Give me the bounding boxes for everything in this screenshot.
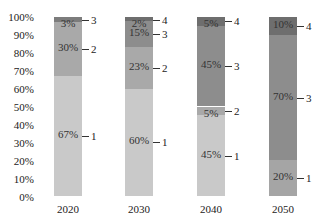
- x-tick-2050: 2050: [263, 203, 303, 215]
- segment-value-label: 20%: [269, 170, 297, 182]
- leader-line: [153, 34, 160, 35]
- series-number-label: 1: [234, 150, 240, 162]
- y-tick-20: 20%: [0, 155, 34, 167]
- bar-2040: 45%5%45%5%: [197, 17, 225, 196]
- segment-value-label: 30%: [54, 41, 82, 53]
- bar-segment-4: 10%: [269, 17, 297, 35]
- series-number-label: 1: [91, 130, 97, 142]
- series-number-label: 3: [162, 28, 168, 40]
- leader-line: [153, 68, 160, 69]
- leader-line: [225, 66, 232, 67]
- leader-line: [82, 20, 89, 21]
- y-tick-70: 70%: [0, 65, 34, 77]
- series-number-label: 3: [306, 92, 312, 104]
- series-number-label: 1: [162, 136, 168, 148]
- bar-2030: 60%23%15%2%: [125, 17, 153, 196]
- series-number-label: 2: [91, 43, 97, 55]
- bar-2050: 20%70%10%: [269, 17, 297, 196]
- bar-segment-3: 3%: [54, 17, 82, 22]
- y-tick-10: 10%: [0, 173, 34, 185]
- bar-segment-3: 45%: [197, 26, 225, 107]
- leader-line: [153, 142, 160, 143]
- x-tick-2030: 2030: [119, 203, 159, 215]
- series-number-label: 4: [234, 15, 240, 27]
- segment-value-label: 70%: [269, 90, 297, 102]
- leader-line: [225, 21, 232, 22]
- segment-value-label: 23%: [125, 60, 153, 72]
- bar-segment-2: 5%: [197, 107, 225, 116]
- leader-line: [225, 156, 232, 157]
- leader-line: [297, 98, 304, 99]
- stacked-percent-bar-chart: 100% 90% 80% 70% 60% 50% 40% 30% 20% 10%…: [0, 0, 320, 222]
- series-number-label: 3: [234, 60, 240, 72]
- series-number-label: 3: [91, 14, 97, 26]
- bar-segment-1: 60%: [125, 89, 153, 196]
- y-tick-30: 30%: [0, 137, 34, 149]
- leader-line: [297, 178, 304, 179]
- bar-segment-2: 30%: [54, 22, 82, 76]
- segment-value-label: 5%: [197, 107, 225, 119]
- segment-value-label: 67%: [54, 128, 82, 140]
- bar-segment-4: 5%: [197, 17, 225, 26]
- series-number-label: 2: [234, 105, 240, 117]
- leader-line: [225, 111, 232, 112]
- y-tick-100: 100%: [0, 11, 34, 23]
- bar-segment-1: 45%: [197, 115, 225, 196]
- series-number-label: 4: [306, 20, 312, 32]
- bar-segment-1: 67%: [54, 76, 82, 196]
- y-tick-50: 50%: [0, 101, 34, 113]
- segment-value-label: 45%: [197, 148, 225, 160]
- bar-2020: 67%30%3%: [54, 17, 82, 196]
- segment-value-label: 60%: [125, 134, 153, 146]
- bar-segment-1: 20%: [269, 160, 297, 196]
- series-number-label: 4: [162, 14, 168, 26]
- bar-segment-4: 2%: [125, 17, 153, 21]
- leader-line: [153, 20, 160, 21]
- x-tick-2040: 2040: [191, 203, 231, 215]
- x-tick-2020: 2020: [48, 203, 88, 215]
- series-number-label: 2: [162, 62, 168, 74]
- bar-segment-3: 70%: [269, 35, 297, 160]
- leader-line: [82, 49, 89, 50]
- segment-value-label: 2%: [125, 17, 153, 29]
- y-tick-90: 90%: [0, 29, 34, 41]
- leader-line: [297, 26, 304, 27]
- bar-segment-2: 23%: [125, 47, 153, 88]
- y-tick-80: 80%: [0, 47, 34, 59]
- y-tick-60: 60%: [0, 83, 34, 95]
- y-tick-40: 40%: [0, 119, 34, 131]
- y-tick-0: 0%: [0, 191, 34, 203]
- series-number-label: 1: [306, 172, 312, 184]
- segment-value-label: 10%: [269, 18, 297, 30]
- leader-line: [82, 136, 89, 137]
- segment-value-label: 45%: [197, 58, 225, 70]
- segment-value-label: 5%: [197, 17, 225, 29]
- segment-value-label: 3%: [54, 17, 82, 29]
